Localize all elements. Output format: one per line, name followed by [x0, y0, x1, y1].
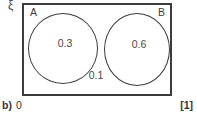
set-b-probability-value: 0.6: [124, 38, 154, 50]
set-a-label: A: [30, 6, 37, 18]
set-a-probability-value: 0.3: [50, 37, 80, 49]
venn-diagram-figure: ξ A B 0.3 0.6 0.1 b) 0 [1]: [0, 0, 197, 114]
universe-xi-label: ξ: [8, 0, 13, 12]
question-part-label: b): [2, 99, 12, 111]
marks-badge: [1]: [180, 99, 193, 111]
set-b-label: B: [158, 6, 165, 18]
outside-probability-value: 0.1: [81, 69, 111, 81]
answer-value: 0: [16, 99, 22, 111]
